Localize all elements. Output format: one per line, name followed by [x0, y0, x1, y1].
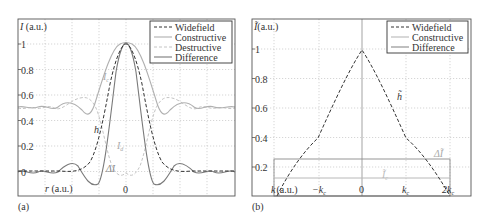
panel-b-label: (b) [252, 201, 264, 213]
curve-difference [18, 43, 235, 185]
panel-b-yticks: 1 0.8 0.6 0.4 0.2 [252, 44, 268, 173]
panel-b-ylabel: Ĩ(a.u.) [253, 21, 278, 33]
xtick-minus-kc: −kc [312, 184, 326, 196]
xtick-zero: 0 [359, 184, 364, 195]
annotation-h: h [94, 124, 99, 135]
annotation-delta-i: ΔI [105, 163, 116, 174]
annotation-ic: Ic [102, 71, 109, 83]
annotation-ic-tilde: Ĩc [381, 169, 388, 181]
panel-a-xlabel: r (a.u.) [45, 183, 73, 195]
curve-widefield-b [277, 50, 450, 196]
ytick-0: 0 [21, 167, 26, 178]
ytick-b-1: 1 [255, 44, 260, 55]
curve-destructive [18, 97, 235, 175]
ytick-b-0.8: 0.8 [255, 74, 268, 85]
ytick-b-0.4: 0.4 [255, 133, 268, 144]
ytick-b-0.6: 0.6 [255, 103, 268, 114]
legend-b-difference: Difference [412, 42, 455, 53]
panel-b-xticks: k(a.u.) −kc 0 kc 2kc [271, 184, 454, 196]
ytick-0.6: 0.6 [21, 90, 34, 101]
annotation-delta-i-tilde: ΔĨ [433, 148, 445, 159]
panel-a: 1 0.8 0.6 0.4 0.2 0 I (a.u.) r (a.u.) 0 … [18, 19, 235, 213]
panel-a-ylabel: I (a.u.) [19, 21, 47, 33]
xtick-kc: kc [402, 184, 409, 196]
ytick-0.2: 0.2 [21, 141, 34, 152]
panel-a-label: (a) [18, 201, 29, 213]
legend-difference: Difference [175, 52, 218, 63]
ytick-0.8: 0.8 [21, 65, 34, 76]
panel-b-xlabel: k(a.u.) [271, 184, 298, 196]
panel-a-legend: Widefield Constructive Destructive Diffe… [150, 21, 232, 63]
ytick-1: 1 [21, 39, 26, 50]
panel-a-xtick-zero: 0 [123, 184, 128, 195]
ytick-0.4: 0.4 [21, 116, 34, 127]
ytick-b-0.2: 0.2 [255, 162, 268, 173]
annotation-h-tilde: h̃ [397, 90, 402, 102]
panel-b: 1 0.8 0.6 0.4 0.2 Ĩ(a.u.) k(a.u.) −kc 0 … [252, 19, 471, 213]
annotation-id: Id [116, 140, 124, 152]
panel-b-legend: Widefield Constructive Difference [387, 21, 468, 53]
xtick-2kc: 2kc [442, 184, 454, 196]
figure: 1 0.8 0.6 0.4 0.2 0 I (a.u.) r (a.u.) 0 … [0, 0, 483, 223]
